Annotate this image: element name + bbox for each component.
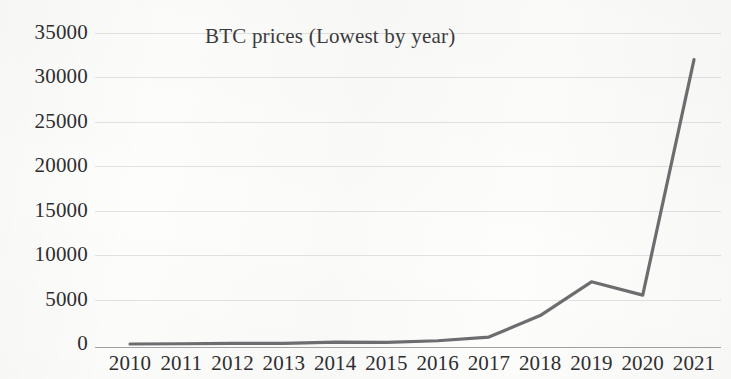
- x-tick-label-2021: 2021: [665, 352, 723, 374]
- y-tick-label-5000: 5000: [6, 289, 88, 310]
- x-tick-label-2014: 2014: [306, 352, 364, 374]
- x-tick-label-2019: 2019: [562, 352, 620, 374]
- y-axis: 35000300002500020000150001000050000: [0, 0, 88, 379]
- gridline-30000: [95, 77, 721, 78]
- gridline-15000: [95, 211, 721, 212]
- plot-area: [95, 27, 721, 348]
- btc-price-line-chart: BTC prices (Lowest by year) 350003000025…: [0, 0, 731, 379]
- x-tick-label-2012: 2012: [204, 352, 262, 374]
- x-tick-label-2017: 2017: [460, 352, 518, 374]
- y-tick-label-15000: 15000: [6, 200, 88, 221]
- gridline-35000: [95, 33, 721, 34]
- gridline-25000: [95, 122, 721, 123]
- x-tick-label-2020: 2020: [614, 352, 672, 374]
- gridline-10000: [95, 255, 721, 256]
- x-tick-label-2011: 2011: [152, 352, 210, 374]
- x-tick-label-2013: 2013: [255, 352, 313, 374]
- x-tick-label-2018: 2018: [511, 352, 569, 374]
- y-tick-label-30000: 30000: [6, 66, 88, 87]
- y-tick-label-0: 0: [6, 333, 88, 354]
- gridline-5000: [95, 300, 721, 301]
- x-tick-label-2010: 2010: [101, 352, 159, 374]
- x-axis-line: [95, 347, 721, 348]
- y-tick-label-10000: 10000: [6, 244, 88, 265]
- y-tick-label-20000: 20000: [6, 155, 88, 176]
- y-tick-label-35000: 35000: [6, 22, 88, 43]
- y-tick-label-25000: 25000: [6, 111, 88, 132]
- gridline-20000: [95, 166, 721, 167]
- x-tick-label-2015: 2015: [357, 352, 415, 374]
- x-tick-label-2016: 2016: [409, 352, 467, 374]
